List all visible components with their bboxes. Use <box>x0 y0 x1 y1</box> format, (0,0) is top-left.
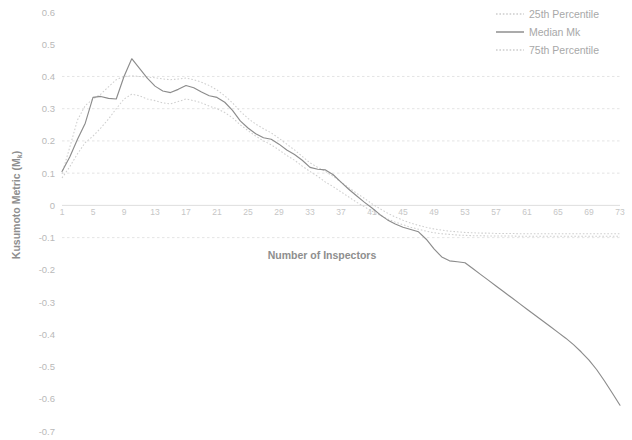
x-tick-label: 33 <box>305 207 315 217</box>
x-tick-label: 25 <box>243 207 253 217</box>
x-tick-label: 45 <box>398 207 408 217</box>
y-tick-label: 0.2 <box>42 135 55 146</box>
x-tick-label: 73 <box>615 207 625 217</box>
x-tick-label: 1 <box>60 207 65 217</box>
chart-figure: 0.60.50.40.30.20.10-0.1-0.2-0.3-0.4-0.5-… <box>0 0 632 440</box>
y-tick-label: 0.6 <box>42 7 55 18</box>
chart-background <box>0 0 632 440</box>
y-tick-label: -0.2 <box>39 264 55 275</box>
x-tick-label: 13 <box>150 207 160 217</box>
x-tick-label: 61 <box>522 207 532 217</box>
y-tick-label: -0.3 <box>39 297 55 308</box>
x-tick-label: 57 <box>491 207 501 217</box>
x-tick-label: 49 <box>429 207 439 217</box>
x-tick-label: 65 <box>553 207 563 217</box>
legend-label-75th-percentile: 75th Percentile <box>529 44 599 56</box>
x-tick-label: 37 <box>336 207 346 217</box>
x-tick-label: 69 <box>584 207 594 217</box>
x-tick-label: 29 <box>274 207 284 217</box>
y-tick-label: -0.7 <box>39 426 55 437</box>
line-chart: 0.60.50.40.30.20.10-0.1-0.2-0.3-0.4-0.5-… <box>0 0 632 440</box>
y-tick-label: 0.4 <box>42 71 55 82</box>
y-tick-label: 0.1 <box>42 168 55 179</box>
x-axis-title: Number of Inspectors <box>268 249 377 261</box>
y-tick-label: 0 <box>50 200 55 211</box>
x-tick-label: 5 <box>91 207 96 217</box>
y-tick-label: -0.6 <box>39 393 55 404</box>
legend-label-25th-percentile: 25th Percentile <box>529 8 599 20</box>
x-tick-label: 17 <box>181 207 191 217</box>
legend-label-median: Median Mk <box>529 26 581 38</box>
x-tick-label: 21 <box>212 207 222 217</box>
y-tick-label: 0.3 <box>42 103 55 114</box>
y-tick-label: -0.1 <box>39 232 55 243</box>
x-tick-label: 9 <box>122 207 127 217</box>
y-tick-label: -0.5 <box>39 361 55 372</box>
y-axis-title: Kusumoto Metric (Mk) <box>10 151 23 259</box>
y-tick-label: 0.5 <box>42 39 55 50</box>
x-tick-label: 53 <box>460 207 470 217</box>
y-tick-label: -0.4 <box>39 329 55 340</box>
